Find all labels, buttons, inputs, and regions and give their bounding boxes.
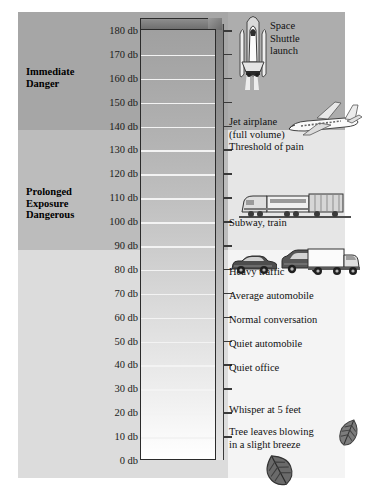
db-tick-label: 70 db bbox=[80, 287, 138, 298]
db-tick-label: 40 db bbox=[80, 359, 138, 370]
leaf-icon bbox=[258, 452, 300, 488]
db-tick-mark bbox=[224, 197, 232, 199]
column-gridline bbox=[141, 222, 215, 224]
decibel-column bbox=[140, 18, 228, 468]
source-label-normal-conversation-line1: Normal conversation bbox=[229, 314, 368, 327]
column-gridline bbox=[141, 342, 215, 344]
db-tick-label: 170 db bbox=[80, 48, 138, 59]
db-tick-label: 180 db bbox=[80, 25, 138, 36]
source-label-space-shuttle-line3: launch bbox=[270, 45, 350, 58]
db-tick-mark bbox=[224, 54, 232, 56]
db-tick-label: 130 db bbox=[80, 144, 138, 155]
source-label-space-shuttle-line1: Space bbox=[270, 20, 350, 33]
source-label-normal-conversation: Normal conversation bbox=[229, 314, 368, 327]
db-tick-label: 10 db bbox=[80, 431, 138, 442]
db-tick-label: 140 db bbox=[80, 120, 138, 131]
decibel-scale-chart: Immediate Danger Prolonged Exposure Dang… bbox=[0, 0, 368, 498]
column-front-face bbox=[140, 29, 216, 460]
db-tick-label: 60 db bbox=[80, 311, 138, 322]
db-tick-mark bbox=[224, 102, 232, 104]
source-label-whisper: Whisper at 5 feet bbox=[229, 404, 368, 417]
db-tick-label: 100 db bbox=[80, 216, 138, 227]
truck-icon bbox=[306, 245, 364, 277]
column-gridline bbox=[141, 389, 215, 391]
leaf-icon bbox=[336, 417, 362, 447]
db-tick-label: 50 db bbox=[80, 335, 138, 346]
db-tick-label: 120 db bbox=[80, 168, 138, 179]
db-tick-mark bbox=[224, 78, 232, 80]
source-label-quiet-office-line1: Quiet office bbox=[229, 362, 368, 375]
db-tick-label: 90 db bbox=[80, 240, 138, 251]
source-label-threshold-of-pain: Threshold of pain bbox=[229, 141, 359, 154]
column-gridline bbox=[141, 413, 215, 415]
column-gridline bbox=[141, 318, 215, 320]
column-gridline bbox=[141, 174, 215, 176]
db-tick-label: 0 db bbox=[80, 455, 138, 466]
source-label-average-automobile: Average automobile bbox=[229, 290, 368, 303]
source-label-threshold-of-pain-line1: Threshold of pain bbox=[229, 141, 359, 154]
db-tick-label: 80 db bbox=[80, 263, 138, 274]
db-tick-label: 160 db bbox=[80, 72, 138, 83]
column-gridline bbox=[141, 127, 215, 129]
source-label-space-shuttle-line2: Shuttle bbox=[270, 33, 350, 46]
db-tick-mark bbox=[224, 388, 232, 390]
source-label-tree-leaves-line1: Tree leaves blowing bbox=[229, 426, 347, 439]
db-tick-mark bbox=[224, 173, 232, 175]
space-shuttle-icon bbox=[232, 14, 274, 90]
column-gridline bbox=[141, 270, 215, 272]
jet-airplane-icon bbox=[283, 99, 363, 139]
source-label-quiet-automobile: Quiet automobile bbox=[229, 338, 368, 351]
column-gridline bbox=[141, 150, 215, 152]
source-label-whisper-line1: Whisper at 5 feet bbox=[229, 404, 368, 417]
db-tick-mark bbox=[224, 30, 232, 32]
source-label-tree-leaves-line2: in a slight breeze bbox=[229, 439, 347, 452]
source-label-quiet-office: Quiet office bbox=[229, 362, 368, 375]
column-gridline bbox=[141, 103, 215, 105]
car-icon bbox=[229, 252, 277, 276]
db-tick-label: 20 db bbox=[80, 407, 138, 418]
source-label-quiet-automobile-line1: Quiet automobile bbox=[229, 338, 368, 351]
subway-train-icon bbox=[239, 190, 351, 220]
db-tick-label: 150 db bbox=[80, 96, 138, 107]
column-gridline bbox=[141, 246, 215, 248]
column-gridline bbox=[141, 55, 215, 57]
db-axis-scale: 180 db170 db160 db150 db140 db130 db120 … bbox=[80, 0, 138, 498]
source-label-space-shuttle: Space Shuttle launch bbox=[270, 20, 350, 58]
source-label-tree-leaves: Tree leaves blowing in a slight breeze bbox=[229, 426, 347, 451]
column-gridline bbox=[141, 198, 215, 200]
db-tick-label: 30 db bbox=[80, 383, 138, 394]
source-label-average-automobile-line1: Average automobile bbox=[229, 290, 368, 303]
db-tick-label: 110 db bbox=[80, 192, 138, 203]
column-gridline bbox=[141, 294, 215, 296]
db-tick-mark bbox=[224, 245, 232, 247]
column-gridline bbox=[141, 365, 215, 367]
column-gridline bbox=[141, 437, 215, 439]
column-gridline bbox=[141, 79, 215, 81]
